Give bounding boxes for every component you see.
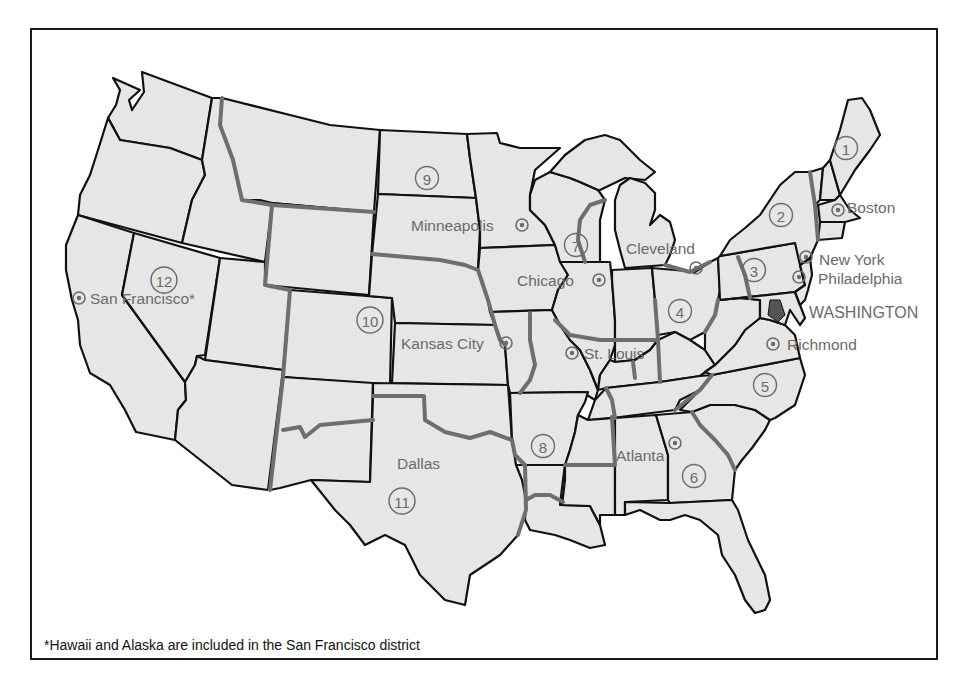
city-label: Philadelphia	[818, 270, 903, 287]
footnote: *Hawaii and Alaska are included in the S…	[44, 637, 420, 653]
district-number-label: 1	[842, 141, 850, 158]
district-number-label: 11	[394, 494, 410, 511]
district-number-label: 9	[423, 171, 431, 188]
district-number-label: 7	[572, 238, 580, 255]
city-san-francisco: San Francisco*	[73, 290, 195, 307]
state-wyoming	[265, 203, 374, 295]
state-montana	[220, 98, 380, 212]
city-dallas: Dallas	[397, 455, 440, 472]
state-connecticut	[818, 222, 845, 240]
district-boundary-ky	[633, 362, 635, 378]
state-kansas	[392, 323, 508, 385]
city-washington: WASHINGTON	[809, 304, 918, 321]
district-number-label: 12	[156, 273, 173, 290]
city-label: St. Louis	[584, 345, 645, 362]
city-label: Chicago	[517, 272, 574, 289]
district-number-label: 8	[539, 439, 547, 456]
district-number-label: 6	[690, 469, 698, 486]
state-colorado	[283, 290, 392, 385]
city-label: Boston	[847, 199, 895, 216]
city-label: Kansas City	[401, 335, 484, 352]
state-north-dakota	[378, 130, 476, 198]
city-label: New York	[819, 251, 885, 268]
state-florida	[625, 500, 770, 613]
district-number-label: 5	[761, 378, 769, 395]
state-maine	[830, 98, 880, 195]
district-number-label: 2	[777, 208, 785, 225]
district-number-label: 10	[362, 313, 379, 330]
district-number-label: 4	[676, 304, 684, 321]
city-label: Dallas	[397, 455, 440, 472]
city-label: Minneapolis	[411, 217, 494, 234]
city-label: San Francisco*	[90, 290, 195, 307]
state-new-mexico	[270, 377, 373, 490]
district-number-label: 3	[750, 263, 758, 280]
city-label: Atlanta	[616, 447, 665, 464]
state-arizona	[175, 356, 283, 490]
federal-reserve-district-map: 123456789101112 BostonNew YorkPhiladelph…	[0, 0, 962, 690]
city-label: Cleveland	[626, 240, 695, 257]
city-label: Richmond	[787, 336, 857, 353]
city-label: WASHINGTON	[809, 304, 918, 321]
